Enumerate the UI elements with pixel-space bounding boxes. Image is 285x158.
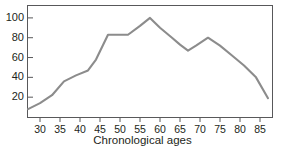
y-tick-label: 100 — [0, 11, 24, 23]
plot-frame — [28, 6, 273, 118]
data-series-line — [28, 18, 268, 109]
line-chart: 20406080100 303540455055606570758085 Chr… — [0, 0, 285, 158]
y-tick-label: 60 — [0, 51, 24, 63]
y-tick-label: 40 — [0, 70, 24, 82]
y-tick-label: 80 — [0, 31, 24, 43]
x-axis-title: Chronological ages — [0, 134, 285, 146]
y-axis-ticks — [28, 18, 33, 97]
y-tick-label: 20 — [0, 90, 24, 102]
